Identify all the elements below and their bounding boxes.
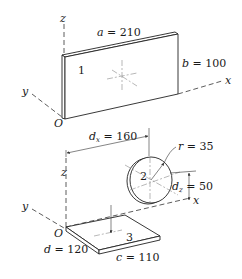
dim-c-label: c = 110 bbox=[116, 251, 159, 264]
disk-2 bbox=[125, 147, 180, 204]
mechanics-diagram: z y x 1 O a = 210 b = 100 bbox=[0, 0, 242, 279]
x-axis-top bbox=[178, 81, 222, 94]
plate-1-label: 1 bbox=[78, 64, 85, 77]
origin-label-top: O bbox=[54, 117, 63, 130]
z-axis-label-bottom: z bbox=[60, 166, 67, 179]
bottom-figure: z y x dx = 160 2 r = 35 bbox=[21, 128, 213, 264]
y-axis-label-bottom: y bbox=[21, 200, 29, 213]
x-axis-label-bottom: x bbox=[193, 194, 200, 207]
dim-r-label: r = 35 bbox=[178, 140, 213, 153]
top-figure: z y x 1 O a = 210 b = 100 bbox=[21, 12, 232, 130]
y-axis-label-top: y bbox=[21, 85, 29, 98]
x-axis-label-top: x bbox=[225, 74, 232, 87]
dim-b-label: b = 100 bbox=[182, 57, 226, 70]
plate-3-label: 3 bbox=[126, 231, 133, 244]
disk-2-label: 2 bbox=[140, 170, 147, 183]
dim-dz-label: dz = 50 bbox=[172, 180, 213, 194]
origin-label-bottom: O bbox=[54, 227, 63, 240]
dim-d-label: d = 120 bbox=[44, 243, 88, 256]
dim-dx-label: dx = 160 bbox=[89, 130, 137, 144]
z-axis-label-top: z bbox=[59, 12, 66, 25]
dim-a-label: a = 210 bbox=[97, 26, 141, 39]
y-axis-bottom bbox=[32, 209, 64, 228]
y-axis-top bbox=[32, 94, 62, 117]
